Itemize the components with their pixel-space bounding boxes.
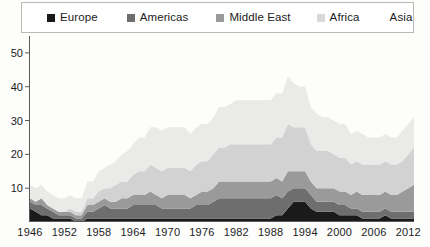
area-series-group (30, 77, 414, 222)
x-tick-label: 1970 (155, 227, 180, 238)
y-tick-label: 40 (11, 81, 23, 92)
stacked-area-chart (0, 36, 430, 222)
plot-area (0, 36, 430, 222)
legend-swatch-americas (127, 14, 135, 22)
x-tick-label: 2000 (327, 227, 352, 238)
legend-swatch-middle-east (216, 14, 224, 22)
legend-item-asia[interactable]: Asia (390, 12, 413, 24)
legend-item-africa[interactable]: Africa (317, 12, 360, 24)
legend-item-europe[interactable]: Europe (47, 12, 98, 24)
x-tick-label: 1988 (258, 227, 283, 238)
legend-label-africa: Africa (330, 12, 360, 24)
legend-item-middle-east[interactable]: Middle East (216, 12, 290, 24)
y-tick-label: 20 (11, 149, 23, 160)
legend-swatch-africa (317, 14, 325, 22)
legend-label-europe: Europe (60, 12, 98, 24)
legend-label-americas: Americas (140, 12, 189, 24)
y-tick-label: 50 (11, 47, 23, 58)
legend-label-asia: Asia (390, 12, 413, 24)
x-tick-label: 2006 (361, 227, 386, 238)
y-axis-labels: 1020304050 (0, 36, 30, 222)
x-tick-label: 2012 (396, 227, 421, 238)
chart-root: Europe Americas Middle East Africa Asia (0, 0, 430, 247)
x-tick-label: 1994 (292, 227, 317, 238)
y-tick-label: 10 (11, 183, 23, 194)
legend-label-middle-east: Middle East (229, 12, 290, 24)
x-tick-label: 1964 (121, 227, 146, 238)
x-axis-labels: 1946195219581964197019761982198819942000… (0, 225, 430, 245)
legend-swatch-europe (47, 14, 55, 22)
x-tick-label: 1982 (224, 227, 249, 238)
y-tick-label: 30 (11, 115, 23, 126)
x-tick-label: 1976 (189, 227, 214, 238)
x-tick-label: 1958 (86, 227, 111, 238)
chart-legend: Europe Americas Middle East Africa Asia (21, 2, 414, 33)
x-tick-label: 1952 (52, 227, 77, 238)
legend-item-americas[interactable]: Americas (127, 12, 189, 24)
x-tick-label: 1946 (17, 227, 42, 238)
